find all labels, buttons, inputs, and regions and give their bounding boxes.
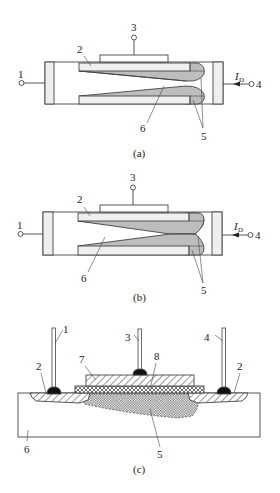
gate-lead <box>138 329 142 373</box>
gate-metal <box>86 375 194 386</box>
label-7: 7 <box>79 353 85 365</box>
label-5: 5 <box>201 130 207 142</box>
label-4: 4 <box>255 229 261 241</box>
label-2: 2 <box>77 193 83 205</box>
label-3: 3 <box>125 331 131 343</box>
gate-terminal <box>132 35 137 40</box>
source-contact <box>45 62 54 104</box>
label-8: 8 <box>154 350 160 362</box>
drain-lead <box>222 328 226 390</box>
panel-c <box>18 328 260 447</box>
gate-oxide <box>75 386 204 393</box>
label-2: 2 <box>77 43 83 55</box>
diffusion-left <box>30 393 90 403</box>
oxide-bottom <box>79 96 190 104</box>
label-6: 6 <box>81 272 87 284</box>
label-6: 6 <box>24 443 30 455</box>
current-subscript: D <box>238 226 243 234</box>
label-1: 1 <box>18 68 24 80</box>
label-5: 5 <box>201 284 207 296</box>
label-3: 3 <box>130 171 136 183</box>
gate-plate <box>100 55 168 62</box>
source-terminal <box>19 81 24 86</box>
source-lead <box>52 328 56 390</box>
drain-contact <box>213 62 223 104</box>
source-terminal <box>18 232 23 237</box>
label-2-left: 2 <box>36 360 42 372</box>
diffusion-right <box>188 393 248 403</box>
label-5: 5 <box>157 448 163 460</box>
label-4: 4 <box>256 78 262 90</box>
gate-contact-blob <box>133 369 147 375</box>
caption-a: (a) <box>133 147 146 160</box>
label-3: 3 <box>131 21 137 33</box>
label-1: 1 <box>17 219 23 231</box>
label-6: 6 <box>140 122 146 134</box>
gate-plate <box>100 205 168 212</box>
mosfet-figure: 1 2 3 4 5 6 I D (a) 1 <box>0 0 280 493</box>
label-4: 4 <box>204 331 210 343</box>
source-contact <box>43 212 53 255</box>
gate-terminal <box>131 185 136 190</box>
panel-b <box>18 185 253 283</box>
oxide-top <box>79 63 190 71</box>
drain-contact-blob <box>217 387 231 394</box>
caption-c: (c) <box>133 463 146 476</box>
drain-terminal <box>248 233 253 238</box>
drain-contact <box>212 212 222 255</box>
label-2-right: 2 <box>237 360 243 372</box>
drain-terminal <box>249 82 254 87</box>
current-subscript: D <box>239 76 244 84</box>
oxide-bottom <box>78 246 189 255</box>
label-1: 1 <box>63 323 69 335</box>
oxide-top <box>78 213 189 221</box>
source-contact-blob <box>47 387 61 394</box>
caption-b: (b) <box>133 291 146 304</box>
panel-a <box>19 35 254 128</box>
